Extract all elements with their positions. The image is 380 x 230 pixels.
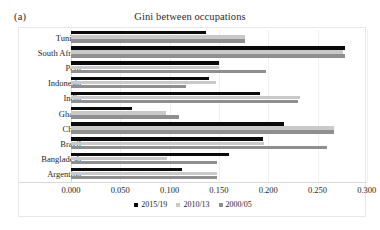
bars-container: [71, 91, 367, 106]
bar: [71, 100, 298, 103]
bar: [71, 157, 167, 160]
bars-container: [71, 106, 367, 121]
bar: [71, 85, 186, 88]
bar: [71, 126, 334, 129]
x-tick-label: 0.150: [209, 185, 228, 195]
bar: [71, 115, 179, 118]
bar-group-row: Peru: [19, 60, 367, 75]
bar: [71, 70, 266, 73]
bar: [71, 130, 334, 133]
bar-group-row: South Africa: [19, 45, 367, 60]
bar: [71, 61, 219, 64]
bar: [71, 54, 345, 57]
bar: [71, 46, 345, 49]
x-axis-line: [19, 182, 367, 183]
bars-container: [71, 167, 367, 182]
bars-container: [71, 30, 367, 45]
bar: [71, 122, 284, 125]
bar: [71, 77, 209, 80]
bar: [71, 107, 132, 110]
bar: [71, 66, 219, 69]
x-tick-label: 0.100: [160, 185, 179, 195]
legend-label: 2010/13: [183, 200, 209, 209]
bars-container: [71, 60, 367, 75]
bar: [71, 92, 260, 95]
x-tick-label: 0.300: [357, 185, 376, 195]
bars-container: [71, 45, 367, 60]
chart-title: Gini between occupations: [0, 11, 380, 22]
bar: [71, 176, 217, 179]
bar-group-row: Brazil: [19, 136, 367, 151]
bar-group-row: Argentina: [19, 167, 367, 182]
bar-group-row: Bangladesh: [19, 152, 367, 167]
legend-label: 2000/05: [226, 200, 252, 209]
bar: [71, 137, 263, 140]
bar: [71, 39, 245, 42]
bar: [71, 161, 217, 164]
bar: [71, 153, 229, 156]
bar-group-row: Ghana: [19, 106, 367, 121]
bar: [71, 168, 182, 171]
legend-label: 2015/19: [141, 200, 167, 209]
bar: [71, 142, 264, 145]
bar: [71, 31, 206, 34]
x-tick-label: 0.050: [111, 185, 130, 195]
bar: [71, 35, 245, 38]
plot-area: TunisiaSouth AfricaPeruIndonesiaIndiaGha…: [18, 27, 366, 217]
bars-container: [71, 76, 367, 91]
x-tick-label: 0.250: [308, 185, 327, 195]
legend-item: 2015/19: [134, 200, 167, 209]
bar-rows: TunisiaSouth AfricaPeruIndonesiaIndiaGha…: [19, 30, 367, 182]
bars-container: [71, 136, 367, 151]
x-tick-label: 0.200: [259, 185, 278, 195]
legend-item: 2000/05: [219, 200, 252, 209]
legend-swatch: [219, 203, 223, 207]
legend-item: 2010/13: [176, 200, 209, 209]
bar: [71, 111, 166, 114]
x-tick-label: 0.000: [61, 185, 80, 195]
bar-group-row: India: [19, 91, 367, 106]
bar-group-row: Tunisia: [19, 30, 367, 45]
bar: [71, 146, 327, 149]
bar-group-row: Indonesia: [19, 76, 367, 91]
bar: [71, 172, 217, 175]
chart-legend: 2015/192010/132000/05: [19, 200, 367, 209]
legend-swatch: [176, 203, 180, 207]
bar: [71, 50, 343, 53]
legend-swatch: [134, 203, 138, 207]
bar: [71, 96, 300, 99]
figure-panel: (a) Gini between occupations TunisiaSout…: [0, 0, 380, 230]
bars-container: [71, 121, 367, 136]
bar: [71, 81, 216, 84]
bar-group-row: Chile: [19, 121, 367, 136]
bars-container: [71, 152, 367, 167]
